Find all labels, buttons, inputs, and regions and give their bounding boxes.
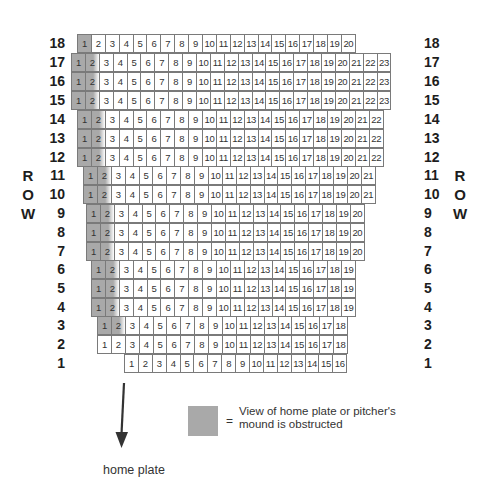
legend-line-1: View of home plate or pitcher's [239, 405, 396, 418]
legend-equals: = [226, 414, 233, 428]
legend-text: View of home plate or pitcher's mound is… [239, 405, 396, 431]
legend-line-2: mound is obstructed [239, 418, 396, 431]
seating-chart: 1234567891011121314151617181920123456789… [0, 0, 491, 481]
home-plate-label: home plate [103, 463, 165, 477]
legend-obstructed-swatch [188, 406, 218, 436]
